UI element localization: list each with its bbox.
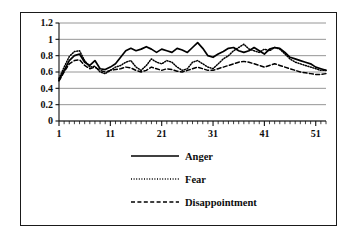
x-tick-label: 21 [157,128,167,139]
x-tick-label: 1 [57,128,62,139]
y-axis-ticks: 1.210.80.60.40.20 [41,17,60,126]
x-axis-ticks [59,121,326,126]
x-tick-label: 31 [208,128,218,139]
y-tick-label: 1.2 [41,17,54,28]
y-tick-label: 0.8 [41,50,54,61]
chart-legend: AngerFearDisappointment [131,151,257,208]
x-tick-label: 51 [311,128,321,139]
chart-figure: 1.210.80.60.40.2011121314151AngerFearDis… [20,12,337,226]
y-tick-label: 1 [48,34,53,45]
legend-label-disappointment: Disappointment [185,197,257,208]
series-group [59,43,326,81]
x-tick-label: 41 [259,128,269,139]
x-axis-labels: 11121314151 [57,128,321,139]
y-tick-label: 0.6 [41,66,54,77]
x-tick-label: 11 [106,128,115,139]
y-tick-label: 0.4 [41,83,54,94]
legend-label-fear: Fear [185,174,206,185]
series-line-fear [59,44,326,78]
y-tick-label: 0 [48,115,53,126]
series-line-anger [59,43,326,81]
line-chart: 1.210.80.60.40.2011121314151AngerFearDis… [21,13,336,225]
legend-label-anger: Anger [185,151,213,162]
gridlines [59,23,326,121]
y-tick-label: 0.2 [41,99,54,110]
